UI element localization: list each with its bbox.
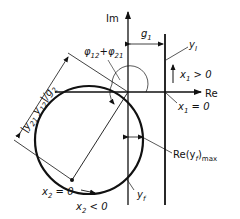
imaginary-axis-label: Im [106, 13, 119, 24]
yf-leader [126, 178, 134, 190]
x1-zero-leader [166, 93, 177, 103]
x2-negative-label: x2 < 0 [75, 201, 108, 215]
x2-decrease-arrow [81, 190, 95, 193]
re-max-label: Re(yf)max [173, 149, 217, 163]
circle-diameter [72, 92, 128, 180]
x1-positive-label: x1 > 0 [179, 69, 212, 83]
x2-zero-label: x2 = 0 [41, 186, 74, 200]
admittance-circle-diagram: Im Re yI g1 x1 > 0 x1 = 0 |y21 y12|/g2 φ… [0, 0, 240, 219]
phase-angle-arc-end [110, 84, 114, 104]
g1-label: g1 [141, 28, 152, 42]
yI-label: yI [188, 39, 197, 53]
yI-leader [166, 47, 188, 60]
yf-circle [35, 86, 143, 194]
tangent-line [14, 140, 72, 180]
phase-label: φ12+φ21 [84, 46, 123, 60]
phase-angle-arc [112, 66, 148, 92]
diameter-label: |y21 y12|/g2 [18, 83, 59, 136]
re-max-leader [144, 138, 172, 153]
x1-zero-label: x1 = 0 [177, 101, 210, 115]
real-axis-label: Re [205, 88, 218, 99]
yf-label: yf [136, 189, 147, 203]
